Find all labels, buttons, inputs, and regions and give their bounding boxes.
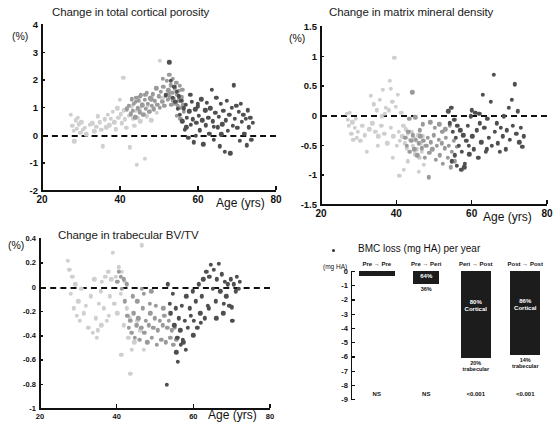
scatter-point — [349, 132, 353, 136]
panel-matrix-mineral-density: Change in matrix mineral density (%) Age… — [285, 0, 560, 232]
plot-area — [321, 26, 547, 204]
scatter-point — [112, 301, 116, 305]
scatter-point — [499, 126, 503, 130]
scatter-point — [104, 318, 108, 322]
scatter-point — [509, 97, 513, 101]
scatter-point — [475, 128, 479, 132]
scatter-point — [187, 109, 191, 113]
scatter-point — [82, 126, 86, 130]
scatter-point — [204, 270, 208, 274]
scatter-point — [442, 146, 446, 150]
scatter-point — [423, 156, 427, 160]
scatter-point — [424, 144, 428, 148]
scatter-point — [403, 135, 407, 139]
scatter-point — [452, 118, 456, 122]
scatter-point — [455, 123, 459, 127]
y-tick — [351, 314, 355, 315]
y-tick-label: -0.8 — [4, 379, 36, 388]
scatter-point — [467, 152, 471, 156]
scatter-point — [107, 123, 111, 127]
scatter-point — [388, 78, 392, 82]
x-tick — [193, 404, 194, 408]
y-tick — [320, 145, 324, 146]
bar[interactable] — [461, 271, 491, 358]
scatter-point — [422, 163, 426, 167]
bar[interactable] — [510, 271, 540, 355]
scatter-point — [149, 118, 153, 122]
scatter-point — [451, 139, 455, 143]
x-tick — [197, 186, 198, 190]
scatter-point — [195, 326, 199, 330]
scatter-point — [131, 311, 135, 315]
scatter-point — [488, 100, 492, 104]
x-tick-label: 80 — [541, 208, 552, 219]
scatter-point — [168, 335, 172, 339]
scatter-point — [132, 340, 136, 344]
scatter-point — [173, 306, 177, 310]
scatter-point — [365, 150, 369, 154]
scatter-point — [191, 333, 195, 337]
x-axis-line — [41, 190, 276, 192]
significance-label: <0.001 — [466, 391, 485, 397]
scatter-point — [512, 82, 516, 86]
x-tick — [116, 404, 117, 408]
scatter-point — [123, 299, 127, 303]
scatter-point — [441, 161, 445, 165]
scatter-point — [381, 88, 385, 92]
scatter-point — [387, 108, 391, 112]
scatter-point — [189, 314, 193, 318]
bar-inside-label: 80%Cortical — [465, 299, 487, 313]
scatter-point — [167, 318, 171, 322]
y-tick-label: -0.5 — [285, 139, 317, 150]
scatter-point — [177, 316, 181, 320]
scatter-point — [219, 272, 223, 276]
x-axis-caption: Age (yrs) — [208, 408, 257, 422]
scatter-point — [410, 90, 414, 94]
bar-group-header: Post → Post — [508, 261, 543, 267]
x-tick — [396, 200, 397, 204]
scatter-point — [476, 156, 480, 160]
scatter-point — [405, 159, 409, 163]
y-tick-label: -0.2 — [4, 306, 36, 315]
scatter-point — [487, 135, 491, 139]
scatter-point — [155, 111, 159, 115]
scatter-point — [396, 93, 400, 97]
scatter-point — [447, 144, 451, 148]
scatter-point — [397, 129, 401, 133]
scatter-point — [200, 294, 204, 298]
scatter-point — [170, 292, 174, 296]
bar[interactable] — [359, 271, 395, 276]
scatter-point — [239, 101, 243, 105]
significance-label: NS — [373, 391, 381, 397]
scatter-point — [174, 350, 178, 354]
scatter-point — [429, 140, 433, 144]
scatter-point — [115, 106, 119, 110]
scatter-point — [213, 299, 217, 303]
x-tick-label: 20 — [36, 412, 44, 421]
scatter-point — [419, 150, 423, 154]
scatter-point — [161, 306, 165, 310]
scatter-point — [221, 109, 225, 113]
y-tick-label: 2 — [6, 74, 38, 85]
scatter-point — [139, 326, 143, 330]
y-tick-label: -1 — [6, 157, 38, 168]
scatter-point — [141, 348, 145, 352]
scatter-point — [162, 104, 166, 108]
panel-total-cortical-porosity: Change in total cortical porosity (%) Ag… — [0, 0, 285, 222]
scatter-point — [212, 137, 216, 141]
scatter-point — [192, 318, 196, 322]
scatter-point — [75, 314, 79, 318]
scatter-point — [196, 101, 200, 105]
scatter-point — [188, 93, 192, 97]
scatter-point — [514, 132, 518, 136]
scatter-point — [462, 165, 466, 169]
scatter-point — [407, 116, 411, 120]
scatter-point — [392, 56, 396, 60]
scatter-point — [460, 150, 464, 154]
scatter-point — [220, 122, 224, 126]
y-tick-label: 1 — [285, 50, 317, 61]
scatter-point — [466, 123, 470, 127]
y-tick — [320, 56, 324, 57]
scatter-point — [208, 106, 212, 110]
scatter-point — [198, 128, 202, 132]
